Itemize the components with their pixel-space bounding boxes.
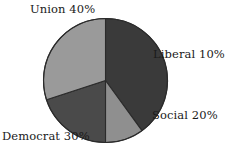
pie-slice-group — [43, 19, 167, 143]
slice-label-union: Union 40% — [30, 4, 95, 16]
slice-label-democrat: Democrat 30% — [2, 131, 90, 143]
slice-label-liberal: Liberal 10% — [153, 49, 225, 61]
pie-chart-figure: Union 40% Liberal 10% Social 20% Democra… — [0, 0, 227, 149]
slice-label-social: Social 20% — [152, 110, 218, 122]
pie-chart-svg — [0, 0, 227, 149]
